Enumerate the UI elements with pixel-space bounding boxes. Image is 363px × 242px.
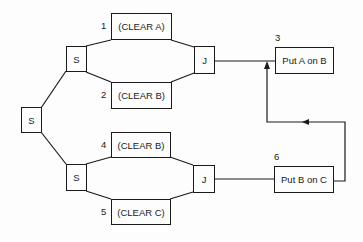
node-s-bottom: S bbox=[66, 164, 87, 191]
node-label: Put A on B bbox=[282, 55, 326, 66]
node-j-top: J bbox=[194, 46, 215, 74]
node-label: (CLEAR A) bbox=[118, 21, 164, 32]
arrow-left-icon bbox=[302, 119, 309, 125]
node-label: Put B on C bbox=[281, 174, 327, 185]
node-number: 5 bbox=[101, 206, 106, 217]
node-label: J bbox=[202, 55, 207, 66]
node-label: S bbox=[73, 172, 79, 183]
node-clear-b-bottom: (CLEAR B) bbox=[111, 132, 171, 158]
node-number: 4 bbox=[101, 139, 106, 150]
node-label: S bbox=[73, 54, 79, 65]
arrow-up-icon bbox=[264, 61, 270, 69]
node-label: S bbox=[28, 115, 34, 126]
node-label: J bbox=[202, 174, 207, 185]
node-label: (CLEAR C) bbox=[117, 207, 165, 218]
node-number: 6 bbox=[274, 151, 279, 162]
node-label: (CLEAR B) bbox=[118, 90, 165, 101]
node-put-b-on-c: Put B on C bbox=[274, 166, 334, 193]
node-s-top: S bbox=[66, 46, 87, 72]
node-clear-c: (CLEAR C) bbox=[111, 199, 171, 225]
node-clear-b-top: (CLEAR B) bbox=[111, 82, 172, 109]
node-s-root: S bbox=[21, 107, 42, 133]
node-clear-a: (CLEAR A) bbox=[111, 13, 172, 40]
connector-lines bbox=[0, 0, 363, 242]
node-number: 2 bbox=[101, 89, 106, 100]
node-j-bottom: J bbox=[193, 165, 215, 193]
node-number: 1 bbox=[101, 20, 106, 31]
node-put-a-on-b: Put A on B bbox=[275, 47, 334, 74]
node-label: (CLEAR B) bbox=[118, 140, 165, 151]
node-number: 3 bbox=[275, 32, 280, 43]
